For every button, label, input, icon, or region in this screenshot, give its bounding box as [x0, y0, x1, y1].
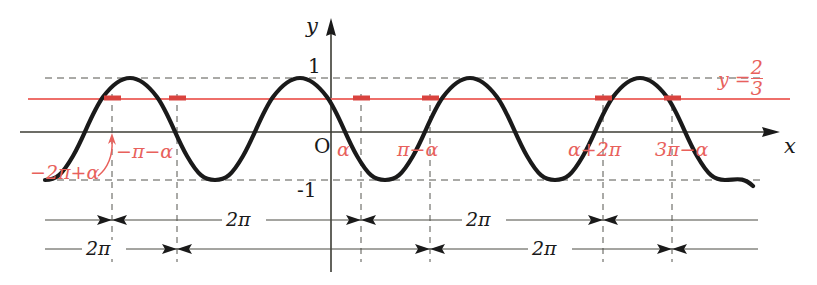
fraction-numerator: 2 — [751, 58, 763, 78]
period-label-lower-right: 2π — [532, 239, 557, 258]
x-axis — [20, 127, 780, 137]
y-tick-label-one: 1 — [308, 56, 321, 76]
root-label-3: α — [337, 140, 350, 159]
period-label-upper-left: 2π — [226, 210, 251, 229]
root-label-4: π−α — [397, 140, 438, 159]
line-equation-label: y =23 — [718, 58, 763, 99]
period-bar-upper — [45, 211, 758, 229]
root-label-5: α+2π — [568, 140, 621, 159]
period-label-lower-left: 2π — [86, 239, 111, 258]
y-axis-label: y — [306, 16, 318, 37]
sine-graph-figure: y x O 1 -1 y =23 −2π+α −π−α α π−α α+2π 3… — [0, 0, 817, 285]
fraction-denominator: 3 — [751, 78, 763, 99]
root-label-1: −2π+α — [30, 163, 99, 182]
line-equation-lhs: y = — [718, 68, 751, 90]
period-bar-lower — [45, 240, 758, 258]
y-tick-label-minus-one: -1 — [297, 180, 316, 200]
line-equation-fraction: 23 — [751, 58, 763, 99]
x-axis-label: x — [784, 136, 796, 157]
period-label-upper-right: 2π — [466, 210, 491, 229]
origin-label: O — [314, 136, 330, 156]
callout-arrow-icon — [98, 133, 116, 176]
root-label-2: −π−α — [116, 142, 173, 161]
root-label-6: 3π−α — [655, 140, 708, 159]
